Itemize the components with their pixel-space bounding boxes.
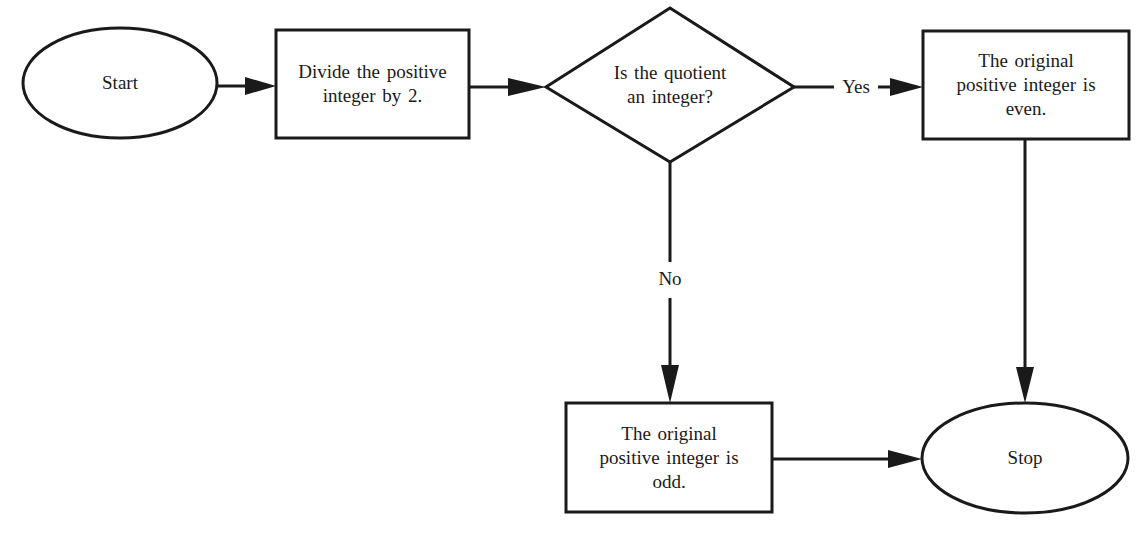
odd-label-line-3: odd. — [652, 470, 685, 494]
even-label-line-3: even. — [1006, 97, 1047, 121]
odd-label-line-1: The original — [621, 422, 716, 446]
even-label-line-1: The original — [978, 49, 1073, 73]
yes-edge-label: Yes — [836, 76, 876, 98]
decision-label-line-2: an integer? — [627, 85, 713, 109]
stop-node: Stop — [922, 403, 1128, 513]
divide-label-line-2: integer by 2. — [323, 84, 423, 108]
start-node: Start — [23, 28, 217, 138]
edge-even-to-stop — [1016, 139, 1034, 403]
even-node: The original positive integer is even. — [923, 31, 1129, 139]
edge-divide-to-decision — [469, 78, 546, 96]
arrowhead-icon — [890, 78, 923, 96]
decision-label-line-1: Is the quotient — [614, 61, 727, 85]
arrowhead-icon — [1016, 367, 1034, 403]
odd-node: The original positive integer is odd. — [566, 403, 772, 512]
arrowhead-icon — [508, 78, 546, 96]
arrowhead-icon — [888, 450, 922, 468]
arrowhead-icon — [661, 365, 679, 403]
arrowhead-icon — [245, 77, 276, 95]
edge-start-to-divide — [217, 77, 276, 95]
start-label: Start — [102, 71, 138, 95]
no-edge-label: No — [652, 268, 688, 290]
even-label-line-2: positive integer is — [956, 73, 1095, 97]
divide-label-line-1: Divide the positive — [298, 60, 447, 84]
stop-label: Stop — [1008, 446, 1043, 470]
edge-odd-to-stop — [772, 450, 922, 468]
odd-label-line-2: positive integer is — [599, 446, 738, 470]
decision-node: Is the quotient an integer? — [546, 8, 794, 162]
divide-node: Divide the positive integer by 2. — [276, 30, 469, 138]
